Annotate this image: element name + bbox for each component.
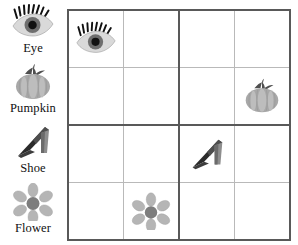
- flower-icon: [10, 183, 56, 221]
- legend-label-pumpkin: Pumpkin: [10, 101, 56, 116]
- sudoku-cell-r1c3[interactable]: [179, 10, 235, 68]
- sudoku-cell-r2c1[interactable]: [68, 68, 124, 126]
- empty-cell: [69, 211, 70, 212]
- sudoku-grid-table: [67, 9, 291, 241]
- empty-cell: [124, 154, 125, 155]
- sudoku-cell-r3c1[interactable]: [68, 125, 124, 183]
- sudoku-row-4: [68, 183, 290, 241]
- empty-cell: [69, 96, 70, 97]
- empty-cell: [124, 96, 125, 97]
- legend-item-eye: Eye: [0, 2, 66, 62]
- sudoku-row-3: [68, 125, 290, 183]
- empty-cell: [235, 39, 236, 40]
- shoe-icon: [185, 135, 229, 173]
- empty-cell: [235, 211, 236, 212]
- eye-icon: [10, 3, 56, 41]
- sudoku-cell-r4c3[interactable]: [179, 183, 235, 241]
- empty-cell: [180, 96, 181, 97]
- legend-label-eye: Eye: [23, 41, 43, 56]
- sudoku-cell-r3c3[interactable]: [179, 125, 235, 183]
- sudoku-row-2: [68, 68, 290, 126]
- empty-cell: [235, 154, 236, 155]
- legend-label-flower: Flower: [15, 221, 51, 236]
- sudoku-cell-r4c4[interactable]: [235, 183, 291, 241]
- eye-icon: [74, 20, 118, 58]
- legend-item-shoe: Shoe: [0, 122, 66, 182]
- sudoku-cell-r4c1[interactable]: [68, 183, 124, 241]
- legend-label-shoe: Shoe: [20, 161, 45, 176]
- picture-sudoku-worksheet: Eye Pumpkin: [0, 0, 298, 245]
- shoe-icon: [10, 123, 56, 161]
- sudoku-cell-r2c4[interactable]: [235, 68, 291, 126]
- sudoku-cell-r2c3[interactable]: [179, 68, 235, 126]
- sudoku-grid: [67, 9, 283, 233]
- pumpkin-icon: [240, 77, 284, 115]
- symbol-legend: Eye Pumpkin: [0, 2, 66, 243]
- sudoku-cell-r3c4[interactable]: [235, 125, 291, 183]
- sudoku-cell-r1c1[interactable]: [68, 10, 124, 68]
- sudoku-cell-r1c2[interactable]: [124, 10, 180, 68]
- empty-cell: [180, 211, 181, 212]
- flower-icon: [129, 192, 173, 230]
- empty-cell: [69, 154, 70, 155]
- legend-item-pumpkin: Pumpkin: [0, 62, 66, 122]
- sudoku-cell-r1c4[interactable]: [235, 10, 291, 68]
- sudoku-cell-r2c2[interactable]: [124, 68, 180, 126]
- sudoku-cell-r3c2[interactable]: [124, 125, 180, 183]
- sudoku-row-1: [68, 10, 290, 68]
- empty-cell: [124, 39, 125, 40]
- pumpkin-icon: [10, 63, 56, 101]
- legend-item-flower: Flower: [0, 182, 66, 242]
- empty-cell: [180, 39, 181, 40]
- sudoku-cell-r4c2[interactable]: [124, 183, 180, 241]
